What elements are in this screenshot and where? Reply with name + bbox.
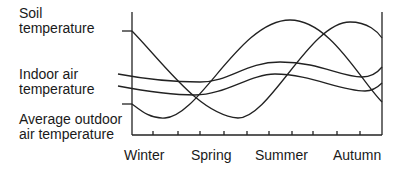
indoor-label-line2: temperature	[19, 82, 94, 97]
soil-temperature-label: Soil temperature	[19, 6, 94, 36]
outdoor-air-temperature-curve	[132, 20, 382, 118]
outdoor-label-line2: air temperature	[19, 127, 122, 142]
x-label-winter: Winter	[124, 147, 164, 163]
outdoor-air-temperature-label: Average outdoor air temperature	[19, 112, 122, 142]
outdoor-label-line1: Average outdoor	[19, 112, 122, 127]
indoor-label-line1: Indoor air	[19, 67, 94, 82]
x-label-summer: Summer	[255, 147, 308, 163]
x-label-autumn: Autumn	[333, 147, 381, 163]
indoor-air-temperature-lower-curve	[118, 74, 382, 95]
soil-label-line2: temperature	[19, 21, 94, 36]
x-label-spring: Spring	[191, 147, 231, 163]
soil-label-line1: Soil	[19, 6, 94, 21]
indoor-air-temperature-label: Indoor air temperature	[19, 67, 94, 97]
y-ticks	[122, 31, 132, 104]
soil-temperature-curve	[132, 22, 382, 118]
